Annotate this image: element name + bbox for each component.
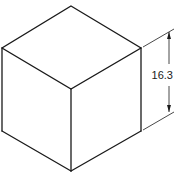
arrow-down-icon <box>167 105 171 112</box>
top-face <box>2 6 141 89</box>
height-dimension: 16.3 <box>143 29 174 130</box>
dimension-label: 16.3 <box>152 69 173 81</box>
bottom-right-edge <box>71 131 141 171</box>
cube <box>2 6 141 171</box>
lower-extension-line <box>143 112 174 130</box>
bottom-left-edge <box>2 131 71 171</box>
cube-diagram: 16.3 <box>0 0 180 173</box>
